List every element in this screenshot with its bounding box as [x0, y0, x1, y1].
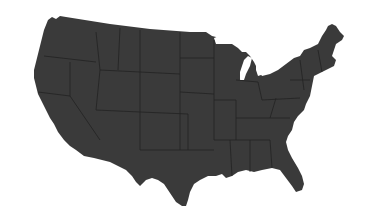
us-map — [0, 0, 367, 223]
lake-superior — [214, 34, 238, 44]
